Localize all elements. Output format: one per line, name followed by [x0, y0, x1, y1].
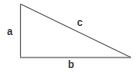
right-triangle-diagram: a b c [0, 0, 138, 76]
side-label-c: c [77, 18, 83, 28]
side-label-b: b [68, 60, 74, 70]
triangle-hypotenuse-c-line [21, 4, 132, 58]
side-label-a: a [7, 27, 13, 37]
